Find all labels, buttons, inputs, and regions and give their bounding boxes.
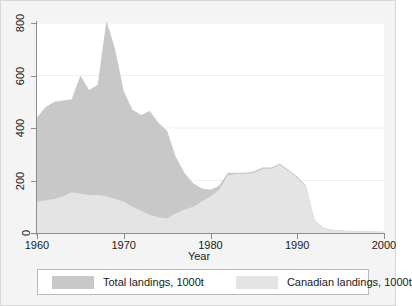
- y-tick-label-600: 600: [1, 68, 29, 84]
- total-landings-swatch: [52, 276, 94, 289]
- legend-label-total-landings: Total landings, 1000t: [103, 276, 204, 288]
- y-tick-400: [31, 128, 36, 129]
- x-axis-title: Year: [1, 250, 397, 262]
- chart-canvas: [37, 23, 384, 233]
- y-tick-200: [31, 181, 36, 182]
- y-tick-800: [31, 23, 36, 24]
- y-axis-line: [36, 21, 37, 235]
- y-tick-label-200: 200: [1, 173, 29, 189]
- legend-label-canadian-landings: Canadian landings, 1000t: [287, 276, 412, 288]
- plot-area: [37, 23, 384, 233]
- y-tick-label-800: 800: [1, 15, 29, 31]
- legend-entry-total-landings[interactable]: Total landings, 1000t: [52, 270, 204, 294]
- y-tick-label-400: 400: [1, 120, 29, 136]
- canadian-landings-swatch: [236, 276, 278, 289]
- chart-legend: Total landings, 1000t Canadian landings,…: [37, 269, 369, 295]
- legend-entry-canadian-landings[interactable]: Canadian landings, 1000t: [236, 270, 412, 294]
- y-tick-600: [31, 76, 36, 77]
